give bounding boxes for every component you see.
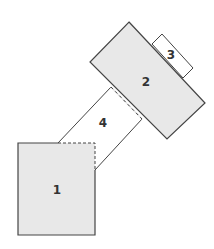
room-4-label: 4: [99, 116, 107, 130]
floor-plan-diagram: 4 3 2 1: [0, 0, 214, 249]
room-1-label: 1: [53, 183, 61, 197]
room-3-label: 3: [167, 48, 175, 62]
room-2-label: 2: [142, 75, 150, 89]
room-1: 1: [18, 143, 95, 235]
